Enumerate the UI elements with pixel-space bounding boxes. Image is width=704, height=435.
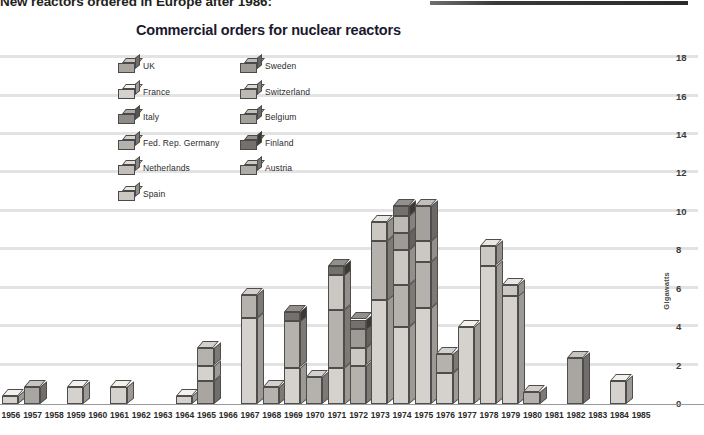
legend-item-spain[interactable]: Spain — [118, 186, 165, 202]
caption-rule — [430, 1, 688, 5]
bar-segment[interactable] — [197, 348, 213, 365]
bar-column[interactable] — [502, 278, 518, 404]
cube-front-face — [240, 114, 257, 124]
bar-segment[interactable] — [241, 318, 257, 404]
bar-segment[interactable] — [415, 262, 431, 308]
bar-column[interactable] — [371, 215, 387, 405]
bar-segment[interactable] — [480, 246, 496, 265]
legend-item-belgium[interactable]: Belgium — [240, 109, 296, 125]
bar-segment[interactable] — [371, 300, 387, 404]
bar-column[interactable] — [350, 312, 366, 404]
bar-column[interactable] — [415, 199, 431, 404]
bar-column[interactable] — [110, 380, 126, 404]
bar-segment[interactable] — [350, 366, 366, 404]
bar-segment[interactable] — [284, 312, 300, 322]
bar-segment[interactable] — [415, 241, 431, 262]
cube-front-face — [118, 114, 135, 124]
cube-front-face — [118, 165, 135, 175]
legend-item-uk[interactable]: UK — [118, 58, 155, 74]
x-tick-label-1985: 1985 — [632, 410, 651, 420]
bar-segment[interactable] — [350, 320, 366, 330]
bar-column[interactable] — [67, 380, 83, 404]
legend-label: Italy — [143, 112, 159, 122]
bar-segment[interactable] — [393, 327, 409, 404]
x-tick-label-1984: 1984 — [610, 410, 629, 420]
bar-segment[interactable] — [393, 206, 409, 216]
legend-item-fed-rep-germany[interactable]: Fed. Rep. Germany — [118, 135, 219, 151]
bar-segment[interactable] — [24, 387, 40, 404]
bar-segment[interactable] — [2, 396, 18, 404]
bar-segment[interactable] — [371, 222, 387, 241]
bar-segment[interactable] — [67, 387, 83, 404]
x-tick-label-1960: 1960 — [88, 410, 107, 420]
legend-item-netherlands[interactable]: Netherlands — [118, 160, 190, 176]
legend-item-italy[interactable]: Italy — [118, 109, 159, 125]
bar-segment[interactable] — [523, 392, 539, 404]
bar-column[interactable] — [458, 320, 474, 404]
legend-item-finland[interactable]: Finland — [240, 135, 294, 151]
bar-column[interactable] — [263, 380, 279, 404]
x-tick-label-1966: 1966 — [219, 410, 238, 420]
bar-segment[interactable] — [502, 296, 518, 404]
bar-segment[interactable] — [306, 377, 322, 404]
x-tick-label-1977: 1977 — [458, 410, 477, 420]
bar-segment[interactable] — [110, 387, 126, 404]
bar-segment[interactable] — [328, 368, 344, 405]
bar-segment[interactable] — [436, 354, 452, 373]
bar-segment[interactable] — [393, 285, 409, 327]
bar-segment[interactable] — [350, 329, 366, 348]
bar-column[interactable] — [306, 370, 322, 404]
x-tick-label-1964: 1964 — [175, 410, 194, 420]
bar-segment[interactable] — [610, 381, 626, 404]
bar-column[interactable] — [241, 288, 257, 405]
bar-segment[interactable] — [458, 327, 474, 404]
bar-segment[interactable] — [393, 216, 409, 233]
bar-column[interactable] — [328, 259, 344, 404]
bar-column[interactable] — [24, 380, 40, 404]
cube-swatch — [118, 135, 140, 151]
bar-column[interactable] — [567, 351, 583, 404]
cube-swatch — [240, 109, 262, 125]
bar-segment[interactable] — [328, 310, 344, 368]
bar-segment[interactable] — [197, 366, 213, 381]
bar-column[interactable] — [284, 305, 300, 404]
bar-segment[interactable] — [371, 241, 387, 301]
bar-segment[interactable] — [284, 321, 300, 367]
cube-front-face — [240, 140, 257, 150]
bar-segment[interactable] — [328, 266, 344, 276]
x-tick-label-1959: 1959 — [67, 410, 86, 420]
legend-item-austria[interactable]: Austria — [240, 160, 292, 176]
legend-item-france[interactable]: France — [118, 84, 170, 100]
bar-segment[interactable] — [502, 285, 518, 297]
bar-segment-side — [300, 316, 307, 368]
cube-front-face — [240, 63, 257, 73]
bar-segment[interactable] — [197, 381, 213, 404]
bar-column[interactable] — [197, 341, 213, 404]
bar-segment[interactable] — [393, 250, 409, 285]
cube-swatch — [118, 160, 140, 176]
bar-segment[interactable] — [415, 308, 431, 404]
bar-segment[interactable] — [241, 295, 257, 318]
bar-column[interactable] — [610, 374, 626, 404]
bar-segment[interactable] — [263, 387, 279, 404]
bar-segment[interactable] — [415, 206, 431, 241]
bar-segment[interactable] — [567, 358, 583, 404]
legend-item-sweden[interactable]: Sweden — [240, 58, 296, 74]
bar-segment[interactable] — [284, 368, 300, 405]
x-tick-label-1957: 1957 — [23, 410, 42, 420]
bar-segment[interactable] — [176, 396, 192, 404]
x-tick-label-1983: 1983 — [588, 410, 607, 420]
bar-column[interactable] — [393, 199, 409, 404]
bar-segment[interactable] — [480, 266, 496, 404]
bar-segment[interactable] — [328, 275, 344, 310]
bar-segment[interactable] — [393, 233, 409, 250]
legend-item-switzerland[interactable]: Switzerland — [240, 84, 310, 100]
bar-segment[interactable] — [436, 373, 452, 404]
bar-column[interactable] — [436, 347, 452, 404]
cube-front-face — [240, 89, 257, 99]
bar-column[interactable] — [2, 389, 18, 404]
bar-column[interactable] — [176, 389, 192, 404]
bar-segment[interactable] — [350, 348, 366, 365]
bar-column[interactable] — [480, 239, 496, 404]
bar-column[interactable] — [523, 385, 539, 404]
